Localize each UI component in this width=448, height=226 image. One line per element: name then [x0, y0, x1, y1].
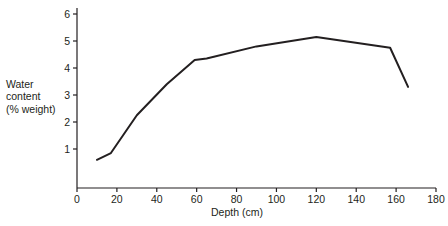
x-tick-label: 120 [308, 193, 326, 205]
x-tick-label: 180 [427, 193, 445, 205]
data-series [97, 37, 408, 160]
x-axis-title-wrap: Depth (cm) [0, 206, 448, 218]
y-tick-label: 4 [64, 62, 70, 74]
y-tick-label: 1 [64, 143, 70, 155]
y-tick-label: 6 [64, 8, 70, 20]
x-axis-title: Depth (cm) [211, 206, 263, 218]
x-tick-label: 100 [268, 193, 286, 205]
x-tick-label: 80 [231, 193, 243, 205]
series-line-water-content [97, 37, 408, 160]
x-tick-label: 0 [74, 193, 80, 205]
x-tick-label: 140 [347, 193, 365, 205]
x-tick-label: 40 [151, 193, 163, 205]
x-tick-label: 20 [111, 193, 123, 205]
y-axis-title: Water content (% weight) [6, 78, 70, 115]
y-tick-label: 2 [64, 116, 70, 128]
y-tick-label: 5 [64, 35, 70, 47]
x-axis: 020406080100120140160180 [74, 188, 445, 205]
x-tick-label: 160 [387, 193, 405, 205]
chart-figure: Water content (% weight) 123456 02040608… [0, 0, 448, 226]
x-tick-label: 60 [191, 193, 203, 205]
